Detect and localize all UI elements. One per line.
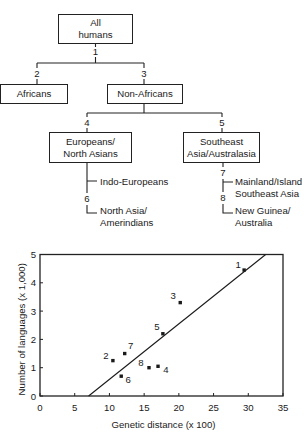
scatter-chart: 0510152025303501234512345678Genetic dist… (0, 0, 307, 438)
data-point-label: 5 (154, 321, 159, 332)
data-point-marker (179, 301, 182, 304)
data-point-marker (242, 268, 245, 271)
y-tick-label: 3 (31, 306, 36, 317)
y-tick-label: 1 (31, 362, 36, 373)
y-tick-label: 2 (31, 334, 36, 345)
data-point-label: 4 (163, 364, 169, 375)
data-point-marker (161, 332, 164, 335)
y-tick-label: 0 (31, 391, 36, 402)
data-point-label: 3 (171, 290, 176, 301)
x-tick-label: 10 (104, 402, 115, 413)
y-tick-label: 5 (31, 249, 36, 260)
data-point-marker (147, 366, 150, 369)
data-point-label: 2 (103, 350, 108, 361)
data-point-marker (156, 365, 159, 368)
data-point-label: 8 (138, 357, 143, 368)
data-point-label: 7 (128, 340, 133, 351)
data-point-label: 1 (235, 259, 240, 270)
y-axis-title: Number of languages (x 1,000) (16, 263, 27, 395)
regression-line (89, 255, 266, 397)
x-tick-label: 20 (174, 402, 185, 413)
x-tick-label: 5 (72, 402, 77, 413)
data-point-marker (120, 374, 123, 377)
x-tick-label: 15 (139, 402, 150, 413)
x-tick-label: 25 (208, 402, 219, 413)
data-point-label: 6 (126, 374, 131, 385)
x-axis-title: Genetic distance (x 100) (112, 419, 216, 430)
data-point-marker (111, 359, 114, 362)
x-tick-label: 35 (278, 402, 289, 413)
x-tick-label: 30 (243, 402, 254, 413)
y-tick-label: 4 (31, 277, 37, 288)
x-tick-label: 0 (37, 402, 42, 413)
plot-frame (40, 255, 283, 397)
data-point-marker (123, 352, 126, 355)
